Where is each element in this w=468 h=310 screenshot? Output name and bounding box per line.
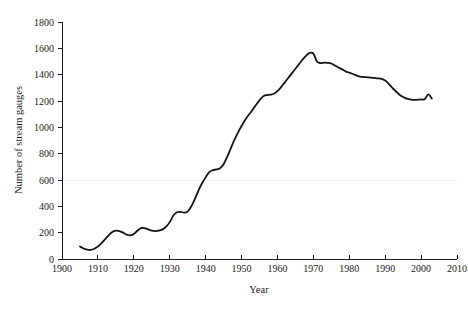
y-axis-ticks: 020040060080010001200140016001800 <box>34 17 62 265</box>
y-tick-label: 600 <box>39 175 54 186</box>
y-tick-label: 800 <box>39 148 54 159</box>
x-axis-title: Year <box>249 284 269 295</box>
x-tick-label: 1950 <box>232 263 252 274</box>
y-tick-label: 1200 <box>34 96 54 107</box>
y-tick-label: 200 <box>39 227 54 238</box>
chart-figure: 020040060080010001200140016001800 190019… <box>0 0 468 310</box>
x-tick-label: 1970 <box>303 263 323 274</box>
y-tick-label: 1000 <box>34 122 54 133</box>
series-line-number-of-stream-gauges <box>80 53 432 250</box>
stream-gauges-line-chart: 020040060080010001200140016001800 190019… <box>0 0 468 310</box>
x-tick-label: 1980 <box>339 263 359 274</box>
x-tick-label: 2010 <box>447 263 467 274</box>
x-tick-label: 1920 <box>124 263 144 274</box>
x-tick-label: 1960 <box>267 263 287 274</box>
y-tick-label: 400 <box>39 201 54 212</box>
x-tick-label: 1910 <box>88 263 108 274</box>
x-tick-label: 1990 <box>375 263 395 274</box>
x-tick-label: 2000 <box>411 263 431 274</box>
y-tick-label: 1600 <box>34 43 54 54</box>
x-tick-label: 1940 <box>196 263 216 274</box>
x-tick-label: 1930 <box>160 263 180 274</box>
y-axis: 020040060080010001200140016001800 <box>34 17 62 265</box>
data-series-group <box>80 53 432 250</box>
y-tick-label: 1400 <box>34 69 54 80</box>
x-tick-label: 1900 <box>52 263 72 274</box>
x-axis-ticks: 1900191019201930194019501960197019801990… <box>52 255 467 274</box>
y-axis-title: Number of stream gauges <box>13 86 24 194</box>
y-tick-label: 1800 <box>34 17 54 28</box>
x-axis: 1900191019201930194019501960197019801990… <box>52 255 467 274</box>
